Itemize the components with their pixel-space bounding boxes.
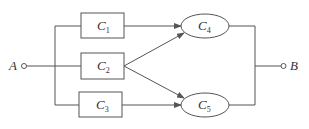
arrows bbox=[122, 26, 184, 105]
left-bus bbox=[27, 26, 82, 105]
arrow-c2-c5 bbox=[124, 66, 184, 98]
node-c3: C3 bbox=[79, 92, 122, 117]
node-c2: C2 bbox=[81, 53, 124, 79]
terminal-b-circle bbox=[281, 64, 286, 69]
right-bus bbox=[229, 26, 281, 105]
arrow-c2-c4 bbox=[124, 33, 184, 66]
terminal-b-label: B bbox=[290, 58, 298, 73]
node-c5: C5 bbox=[181, 93, 229, 117]
network-diagram: A C1 C2 C3 C4 C5 bbox=[0, 0, 309, 129]
terminal-a-circle bbox=[22, 64, 27, 69]
node-c1: C1 bbox=[81, 13, 124, 38]
terminal-a: A bbox=[8, 58, 27, 73]
node-c4: C4 bbox=[181, 14, 229, 38]
terminal-b: B bbox=[281, 58, 298, 73]
terminal-a-label: A bbox=[8, 58, 17, 73]
